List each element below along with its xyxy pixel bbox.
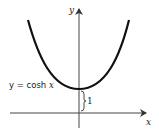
brace-label: 1 xyxy=(87,96,93,106)
x-axis-label: x xyxy=(146,117,151,127)
curve-label-prefix: y = cosh xyxy=(9,80,49,90)
curve-label: y = cosh x xyxy=(9,80,54,90)
cosh-diagram: 1 y x y = cosh x xyxy=(0,0,159,134)
curve-label-var: x xyxy=(49,80,54,90)
y-axis-label: y xyxy=(68,5,75,15)
brace-icon xyxy=(81,91,86,111)
